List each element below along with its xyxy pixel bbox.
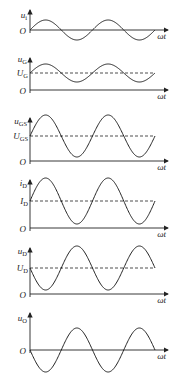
x-axis-label: ωt	[157, 351, 166, 361]
y-axis-label: ui	[21, 10, 28, 21]
y-axis-label: iD	[20, 178, 28, 189]
dc-level-label: UGS	[13, 131, 28, 142]
y-axis-label: uO	[18, 313, 28, 324]
x-axis-label: ωt	[157, 229, 166, 239]
panel-ui: uiOωt	[20, 10, 169, 41]
x-axis-label: ωt	[157, 91, 166, 101]
dc-level-label: ID	[19, 196, 28, 207]
y-axis-label: uG	[18, 54, 28, 65]
origin-label: O	[20, 224, 27, 234]
panel-uO: uOOωt	[18, 313, 168, 372]
x-axis-label: ωt	[157, 31, 166, 41]
origin-label: O	[20, 26, 27, 36]
dc-level-label: UG	[17, 68, 29, 79]
origin-label: O	[20, 157, 27, 167]
origin-label: O	[20, 346, 27, 356]
waveform-diagram: uiOωtuGOωtUGuGSOωtUGSiDOωtIDuDOωtUDuOOωt	[0, 0, 180, 389]
y-axis-label: uGS	[14, 116, 27, 127]
panel-uGS: uGSOωtUGS	[13, 115, 168, 172]
origin-label: O	[20, 290, 27, 300]
panel-uG: uGOωtUG	[17, 54, 168, 101]
origin-label: O	[20, 86, 27, 96]
panel-uD: uDOωtUD	[17, 246, 168, 305]
x-axis-label: ωt	[157, 162, 166, 172]
dc-level-label: UD	[17, 263, 29, 274]
y-axis-label: uD	[18, 246, 28, 257]
panel-iD: iDOωtID	[19, 178, 168, 239]
x-axis-label: ωt	[157, 295, 166, 305]
